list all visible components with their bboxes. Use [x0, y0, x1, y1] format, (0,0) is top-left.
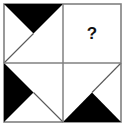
question-mark-label: ?: [63, 4, 121, 63]
matrix-reasoning-puzzle: ?: [0, 0, 127, 129]
